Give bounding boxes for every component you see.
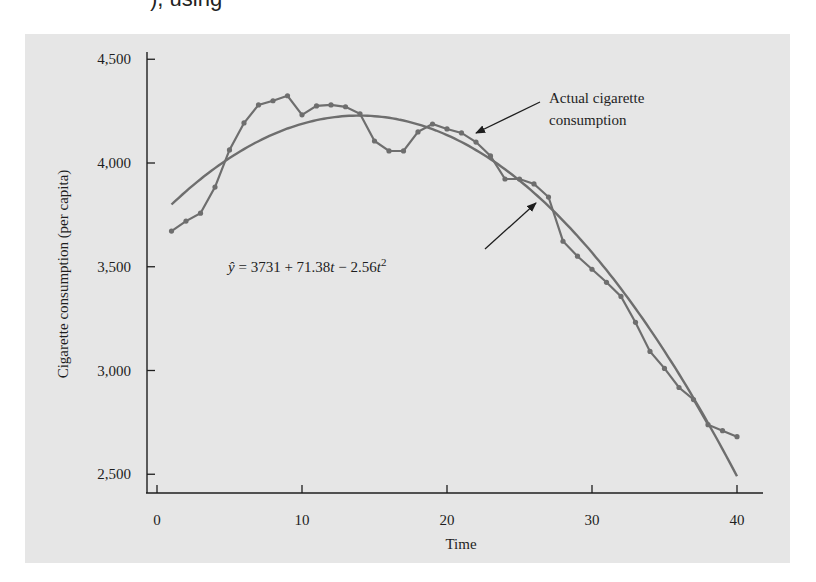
- y-tick-label: 2,500: [97, 466, 131, 482]
- data-point-marker: [415, 129, 420, 134]
- x-tick-label: 20: [440, 512, 455, 528]
- data-point-marker: [299, 112, 304, 117]
- data-point-marker: [372, 138, 377, 143]
- data-point-marker: [662, 366, 667, 371]
- data-point-marker: [647, 349, 652, 354]
- y-tick-label: 4,000: [97, 155, 131, 171]
- x-tick-label: 0: [153, 512, 161, 528]
- data-point-marker: [169, 228, 174, 233]
- data-point-marker: [256, 102, 261, 107]
- arrow-icon: [485, 203, 536, 249]
- data-point-marker: [488, 153, 493, 158]
- data-point-marker: [589, 267, 594, 272]
- data-point-marker: [357, 111, 362, 116]
- actual-consumption-annotation: Actual cigarette consumption: [476, 90, 645, 133]
- data-point-marker: [604, 280, 609, 285]
- x-tick-label: 30: [585, 512, 600, 528]
- data-point-marker: [328, 102, 333, 107]
- data-point-marker: [720, 428, 725, 433]
- data-point-marker: [459, 130, 464, 135]
- data-point-marker: [241, 120, 246, 125]
- data-point-marker: [473, 139, 478, 144]
- data-point-marker: [227, 147, 232, 152]
- data-point-marker: [691, 397, 696, 402]
- data-point-marker: [183, 219, 188, 224]
- x-tick-label: 40: [730, 512, 745, 528]
- data-point-marker: [270, 98, 275, 103]
- y-tick-label: 4,500: [97, 51, 131, 67]
- data-point-marker: [198, 211, 203, 216]
- chart-canvas: 2,5003,0003,5004,0004,500 010203040 Ciga…: [0, 0, 816, 582]
- data-point-marker: [546, 194, 551, 199]
- equation-annotation: ŷ = 3731 + 71.38t − 2.56t2: [226, 203, 536, 275]
- data-point-marker: [531, 181, 536, 186]
- data-point-marker: [444, 126, 449, 131]
- data-point-marker: [676, 385, 681, 390]
- regression-equation: ŷ = 3731 + 71.38t − 2.56t2: [226, 256, 386, 275]
- annotation-line-2: consumption: [549, 112, 627, 128]
- y-axis-title: Cigarette consumption (per capita): [55, 170, 72, 379]
- y-tick-label: 3,500: [97, 259, 131, 275]
- data-point-marker: [386, 148, 391, 153]
- fitted-trend-line: [172, 116, 738, 477]
- data-point-marker: [343, 104, 348, 109]
- data-point-marker: [633, 320, 638, 325]
- data-point-marker: [618, 294, 623, 299]
- data-point-marker: [212, 184, 217, 189]
- x-tick-label: 10: [295, 512, 310, 528]
- data-point-marker: [705, 422, 710, 427]
- data-point-marker: [734, 434, 739, 439]
- x-axis-title: Time: [445, 536, 476, 552]
- data-point-marker: [430, 121, 435, 126]
- data-point-marker: [502, 176, 507, 181]
- y-tick-label: 3,000: [97, 363, 131, 379]
- data-point-marker: [285, 93, 290, 98]
- data-point-marker: [517, 176, 522, 181]
- data-point-marker: [575, 254, 580, 259]
- y-axis: 2,5003,0003,5004,0004,500: [97, 51, 155, 493]
- data-point-marker: [401, 148, 406, 153]
- data-point-marker: [560, 239, 565, 244]
- x-axis: 010203040: [146, 485, 763, 528]
- data-point-marker: [314, 103, 319, 108]
- annotation-line-1: Actual cigarette: [549, 90, 645, 106]
- arrow-icon: [476, 102, 540, 133]
